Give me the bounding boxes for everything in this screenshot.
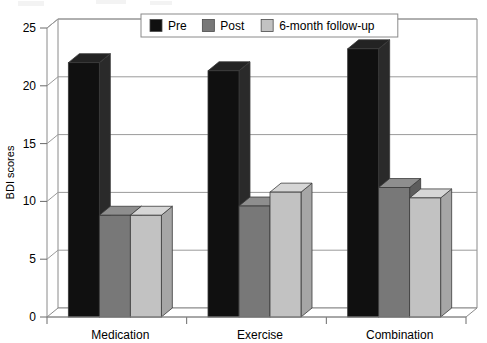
gridline-depth-10	[47, 192, 58, 201]
bar-front-face	[68, 63, 99, 317]
x-axis-label-exercise: Exercise	[237, 328, 283, 342]
bar-front-face	[270, 192, 301, 317]
gridline-depth-15	[47, 135, 58, 144]
chart-container: 0510152025BDI scoresMedicationExerciseCo…	[0, 0, 487, 343]
bar-side-face	[161, 206, 172, 317]
bar-front-face	[348, 49, 379, 317]
y-tick-label-20: 20	[23, 79, 37, 93]
y-tick-label-15: 15	[23, 137, 37, 151]
y-tick-label-5: 5	[29, 252, 36, 266]
bar-front-face	[208, 71, 239, 317]
legend-label-post: Post	[220, 19, 245, 33]
y-axis-title: BDI scores	[4, 145, 16, 199]
bar-front-face	[410, 198, 441, 317]
bar-medication-6-month-follow-up	[130, 206, 172, 317]
bar-front-face	[379, 188, 410, 317]
x-axis-label-combination: Combination	[366, 328, 433, 342]
gridline-depth-20	[47, 77, 58, 86]
gridline-depth-5	[47, 250, 58, 259]
legend-label-pre: Pre	[168, 19, 187, 33]
y-tick-label-0: 0	[29, 310, 36, 324]
legend-swatch-pre	[150, 20, 162, 32]
bar-combination-6-month-follow-up	[410, 189, 452, 317]
legend-swatch-6-month-follow-up	[261, 20, 273, 32]
bar-side-face	[301, 183, 312, 317]
x-axis-label-medication: Medication	[91, 328, 149, 342]
bar-front-face	[239, 206, 270, 317]
gridline-depth-25	[47, 19, 58, 28]
legend-swatch-post	[202, 20, 214, 32]
bar-side-face	[441, 189, 452, 317]
y-tick-label-10: 10	[23, 194, 37, 208]
y-tick-label-25: 25	[23, 21, 37, 35]
legend-label-6-month-follow-up: 6-month follow-up	[279, 19, 375, 33]
bar-exercise-6-month-follow-up	[270, 183, 312, 317]
bar-front-face	[99, 215, 130, 317]
bar-front-face	[130, 215, 161, 317]
bdi-scores-bar-chart: 0510152025BDI scoresMedicationExerciseCo…	[0, 0, 487, 343]
